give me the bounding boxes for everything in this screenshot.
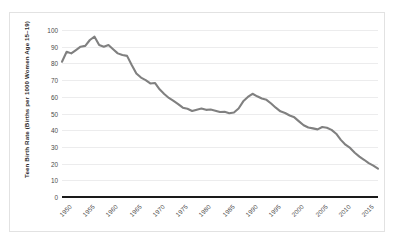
x-axis-tick-label: 1955: [74, 203, 96, 225]
x-axis-tick-label: 1980: [190, 203, 212, 225]
x-axis-tick-label: 1970: [144, 203, 166, 225]
x-axis-tick-label: 2015: [353, 203, 375, 225]
x-axis-tick-label: 1960: [97, 203, 119, 225]
x-axis-tick-label: 1985: [214, 203, 236, 225]
x-axis-tick-label: 1950: [51, 203, 73, 225]
x-axis-tick-labels: 1950195519601965197019751980198519901995…: [0, 0, 401, 242]
x-axis-tick-label: 1995: [260, 203, 282, 225]
x-axis-tick-label: 2010: [330, 203, 352, 225]
chart-container: Teen Birth Rate (Births per 1000 Women A…: [0, 0, 401, 242]
x-axis-tick-label: 1965: [121, 203, 143, 225]
x-axis-tick-label: 2000: [283, 203, 305, 225]
x-axis-tick-label: 1975: [167, 203, 189, 225]
x-axis-tick-label: 1990: [237, 203, 259, 225]
x-axis-tick-label: 2005: [307, 203, 329, 225]
